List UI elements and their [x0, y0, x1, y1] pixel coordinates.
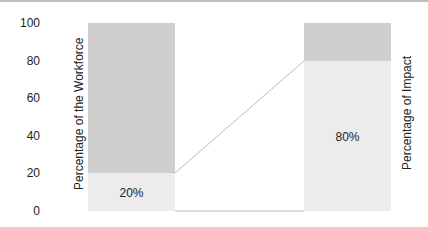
category-label: Percentage of the Workforce: [72, 37, 86, 190]
connector-lines: [0, 0, 428, 227]
category-label: Percentage of Impact: [400, 56, 414, 170]
